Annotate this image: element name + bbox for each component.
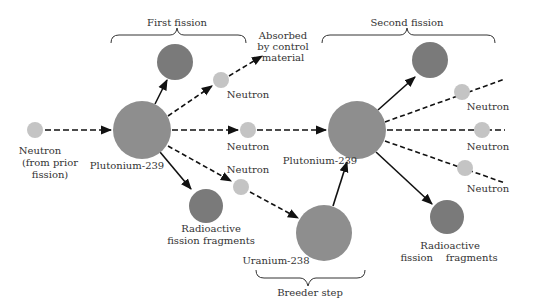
pu2-to-top-fragment-arrow bbox=[378, 77, 415, 110]
pu1-to-absorbed-neutron-arrow bbox=[168, 86, 212, 116]
neutron-lower bbox=[233, 179, 249, 195]
neutron-prior-label-2: (from prior bbox=[22, 157, 78, 168]
fission-diagram: First fission Second fission Breeder ste… bbox=[0, 0, 536, 298]
neutron-mid-label: Neutron bbox=[227, 141, 270, 152]
fission-fragment-lower-first bbox=[189, 189, 223, 223]
fragments-first-label-2: fission fragments bbox=[167, 235, 255, 246]
uranium-label: Uranium-238 bbox=[242, 255, 309, 266]
second-fission-label: Second fission bbox=[370, 17, 444, 28]
uranium-238 bbox=[296, 205, 352, 261]
plutonium-239-second bbox=[328, 101, 386, 159]
fission-fragment-lower-second bbox=[430, 200, 464, 234]
neutron-right-1-label: Neutron bbox=[467, 101, 510, 112]
plutonium-239-first bbox=[113, 101, 171, 159]
breeder-step-label: Breeder step bbox=[277, 287, 343, 298]
first-fission-brace bbox=[111, 28, 246, 43]
lower-neutron-to-u238-arrow bbox=[250, 192, 298, 218]
pu1-to-lower-neutron-arrow bbox=[168, 146, 231, 181]
absorbed-label-2: by control bbox=[257, 41, 308, 52]
plutonium-label-1: Plutonium-239 bbox=[90, 160, 164, 171]
second-fission-brace bbox=[322, 28, 495, 43]
neutron-lower-label: Neutron bbox=[227, 164, 270, 175]
neutron-absorbed-label: Neutron bbox=[227, 89, 270, 100]
fragments-second-label-2: fission fragments bbox=[400, 252, 497, 263]
fragments-second-label-1: Radioactive bbox=[420, 240, 480, 251]
neutron-absorbed bbox=[213, 72, 229, 88]
neutron-right-3 bbox=[457, 160, 473, 176]
plutonium-label-2: Plutonium-239 bbox=[283, 155, 357, 166]
pu1-to-lower-fragment-arrow bbox=[160, 152, 191, 189]
breeder-step-brace bbox=[256, 270, 365, 286]
neutron-right-3-label: Neutron bbox=[467, 183, 510, 194]
neutron-right-2 bbox=[474, 122, 490, 138]
pu2-to-lower-fragment-arrow bbox=[376, 152, 432, 204]
neutron-prior-label-1: Neutron bbox=[19, 145, 62, 156]
neutron-right-1 bbox=[454, 84, 470, 100]
absorbed-label-3: material bbox=[262, 52, 305, 63]
neutron-prior-label-3: fission) bbox=[32, 169, 69, 180]
u238-to-pu2-arrow bbox=[333, 162, 347, 206]
absorbed-label-1: Absorbed bbox=[258, 30, 308, 41]
absorbed-neutron-to-control-arrow bbox=[229, 56, 262, 76]
fragments-first-label-1: Radioactive bbox=[181, 223, 241, 234]
neutron-right-2-label: Neutron bbox=[467, 141, 510, 152]
fission-fragment-top-second bbox=[412, 42, 448, 78]
neutron-mid bbox=[240, 122, 256, 138]
fission-fragment-top-first bbox=[157, 44, 193, 80]
first-fission-label: First fission bbox=[147, 17, 207, 28]
neutron-prior bbox=[27, 122, 43, 138]
pu1-to-top-fragment-arrow bbox=[155, 80, 167, 104]
